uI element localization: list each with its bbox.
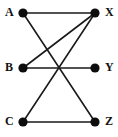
vertex-y[interactable] xyxy=(90,63,99,72)
graph-canvas xyxy=(0,0,118,137)
edges-group xyxy=(23,13,95,122)
vertex-label-a: A xyxy=(5,6,14,18)
graph-figure: AXBYCZ xyxy=(0,0,118,137)
edge-b-x xyxy=(23,13,95,68)
vertex-b[interactable] xyxy=(18,63,27,72)
vertex-label-z: Z xyxy=(105,115,113,127)
vertex-label-x: X xyxy=(105,6,114,18)
vertex-z[interactable] xyxy=(90,117,99,126)
vertex-c[interactable] xyxy=(18,117,27,126)
vertex-x[interactable] xyxy=(90,8,99,17)
vertex-label-y: Y xyxy=(105,61,114,73)
vertex-a[interactable] xyxy=(18,8,27,17)
vertex-label-b: B xyxy=(5,61,13,73)
vertex-label-c: C xyxy=(5,115,14,127)
